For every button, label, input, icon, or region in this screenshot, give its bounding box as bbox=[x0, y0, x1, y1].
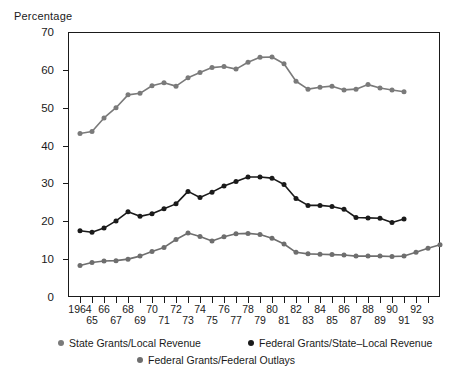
series-point bbox=[342, 87, 347, 92]
legend-marker-icon bbox=[137, 357, 143, 363]
x-axis-tick-label: 84 bbox=[314, 303, 326, 315]
series-point bbox=[294, 196, 299, 201]
series-point bbox=[390, 220, 395, 225]
series-point bbox=[402, 89, 407, 94]
series-point bbox=[234, 179, 239, 184]
series-point bbox=[90, 230, 95, 235]
series-point bbox=[246, 174, 251, 179]
legend-label: State Grants/Local Revenue bbox=[69, 337, 201, 349]
legend-item-federal-grants-state-local-revenue: Federal Grants/State–Local Revenue bbox=[248, 337, 432, 349]
series-point bbox=[78, 228, 83, 233]
series-point bbox=[294, 250, 299, 255]
x-axis-tick-label: 89 bbox=[374, 314, 386, 326]
series-point bbox=[438, 242, 443, 247]
series-point bbox=[162, 80, 167, 85]
legend-label: Federal Grants/Federal Outlays bbox=[148, 354, 295, 366]
x-axis-tick-label: 81 bbox=[278, 314, 290, 326]
x-axis-tick-label: 92 bbox=[410, 303, 422, 315]
y-axis-tick-label: 60 bbox=[41, 64, 54, 76]
series-point bbox=[282, 182, 287, 187]
series-point bbox=[366, 254, 371, 259]
data-series-layer bbox=[68, 32, 440, 297]
series-point bbox=[114, 218, 119, 223]
series-point bbox=[234, 67, 239, 72]
series-point bbox=[390, 254, 395, 259]
x-axis-tick-label: 87 bbox=[350, 314, 362, 326]
series-point bbox=[378, 254, 383, 259]
series-point bbox=[222, 234, 227, 239]
x-axis-tick-label: 90 bbox=[386, 303, 398, 315]
series-point bbox=[150, 249, 155, 254]
series-point bbox=[210, 65, 215, 70]
x-axis-tick-label: 78 bbox=[242, 303, 254, 315]
series-point bbox=[90, 260, 95, 265]
series-point bbox=[258, 55, 263, 60]
x-axis-tick-label: 74 bbox=[194, 303, 206, 315]
series-point bbox=[354, 254, 359, 259]
series-point bbox=[90, 129, 95, 134]
series-point bbox=[174, 201, 179, 206]
series-line bbox=[80, 177, 404, 232]
series-point bbox=[210, 190, 215, 195]
x-axis-tick-label: 83 bbox=[302, 314, 314, 326]
series-point bbox=[102, 226, 107, 231]
series-point bbox=[342, 252, 347, 257]
series-point bbox=[246, 231, 251, 236]
series-3 bbox=[78, 231, 443, 269]
x-axis-tick-label: 75 bbox=[206, 314, 218, 326]
series-point bbox=[306, 203, 311, 208]
series-point bbox=[366, 215, 371, 220]
series-point bbox=[282, 61, 287, 66]
series-line bbox=[80, 233, 440, 266]
series-point bbox=[114, 258, 119, 263]
x-axis-tick-label: 85 bbox=[326, 314, 338, 326]
x-axis-tick-label: 67 bbox=[110, 314, 122, 326]
y-axis-tick-label: 40 bbox=[41, 140, 54, 152]
series-point bbox=[222, 184, 227, 189]
series-point bbox=[114, 105, 119, 110]
series-point bbox=[138, 214, 143, 219]
series-point bbox=[270, 54, 275, 59]
series-point bbox=[330, 252, 335, 257]
series-point bbox=[270, 176, 275, 181]
y-axis: 010203040506070 bbox=[0, 0, 68, 392]
legend-row-1: State Grants/Local Revenue Federal Grant… bbox=[0, 337, 467, 354]
series-point bbox=[366, 82, 371, 87]
series-1 bbox=[78, 54, 407, 135]
series-point bbox=[78, 131, 83, 136]
series-point bbox=[378, 86, 383, 91]
series-point bbox=[258, 174, 263, 179]
series-point bbox=[198, 234, 203, 239]
series-point bbox=[426, 246, 431, 251]
legend-marker-icon bbox=[248, 340, 254, 346]
series-point bbox=[258, 232, 263, 237]
legend-item-federal-grants-federal-outlays: Federal Grants/Federal Outlays bbox=[137, 354, 295, 366]
series-point bbox=[402, 217, 407, 222]
series-point bbox=[102, 115, 107, 120]
x-axis-tick-label: 88 bbox=[362, 303, 374, 315]
legend-label: Federal Grants/State–Local Revenue bbox=[259, 337, 432, 349]
series-point bbox=[390, 87, 395, 92]
plot-area bbox=[68, 32, 440, 297]
series-point bbox=[186, 231, 191, 236]
series-point bbox=[126, 209, 131, 214]
x-axis-tick-label: 82 bbox=[290, 303, 302, 315]
x-axis-labels: 1964656667686970717273747576777879808182… bbox=[0, 303, 467, 329]
series-point bbox=[210, 238, 215, 243]
series-point bbox=[414, 250, 419, 255]
series-point bbox=[402, 254, 407, 259]
series-point bbox=[150, 83, 155, 88]
legend-row-2: Federal Grants/Federal Outlays bbox=[0, 354, 467, 371]
series-point bbox=[234, 231, 239, 236]
series-point bbox=[174, 237, 179, 242]
series-point bbox=[342, 207, 347, 212]
x-axis-tick-label: 80 bbox=[266, 303, 278, 315]
x-axis-tick-label: 93 bbox=[422, 314, 434, 326]
series-point bbox=[186, 189, 191, 194]
series-point bbox=[162, 245, 167, 250]
series-point bbox=[222, 64, 227, 69]
series-point bbox=[138, 254, 143, 259]
series-point bbox=[102, 259, 107, 264]
y-axis-tick-label: 0 bbox=[48, 291, 54, 303]
x-axis-tick-label: 91 bbox=[398, 314, 410, 326]
